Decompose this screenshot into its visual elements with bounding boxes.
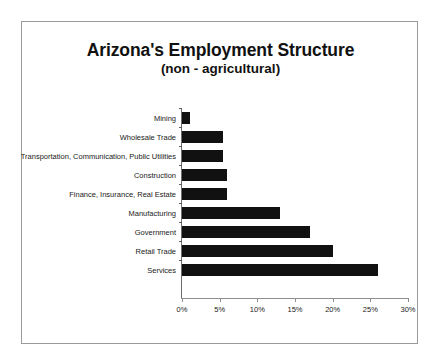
chart-subtitle: (non - agricultural) (22, 60, 419, 77)
category-label: Manufacturing (128, 208, 176, 217)
title-block: Arizona's Employment Structure (non - ag… (22, 40, 419, 77)
bar-manufacturing (182, 207, 280, 219)
category-label: Mining (154, 113, 176, 122)
bar-row: Wholesale Trade (182, 127, 408, 146)
bar-row: Finance, Insurance, Real Estate (182, 184, 408, 203)
bar-government (182, 226, 310, 238)
chart-title: Arizona's Employment Structure (22, 40, 419, 60)
x-axis-tick-label: 5% (214, 305, 225, 314)
x-axis-tick (182, 298, 183, 302)
bar-finance-insurance-real-estate (182, 188, 227, 200)
category-label: Retail Trade (136, 246, 176, 255)
x-axis-tick (408, 298, 409, 302)
chart-frame: Arizona's Employment Structure (non - ag… (21, 21, 418, 344)
y-axis-tick (179, 165, 182, 166)
x-axis-tick (257, 298, 258, 302)
category-label: Finance, Insurance, Real Estate (69, 189, 176, 198)
plot-area: Mining Wholesale Trade Transportation, C… (182, 108, 408, 298)
bar-wholesale-trade (182, 131, 223, 143)
bar-services (182, 264, 378, 276)
bar-retail-trade (182, 245, 333, 257)
y-axis-tick (179, 260, 182, 261)
y-axis-tick (179, 184, 182, 185)
category-label: Transportation, Communication, Public Ut… (21, 151, 176, 160)
y-axis-tick (179, 203, 182, 204)
y-axis-tick (179, 222, 182, 223)
x-axis-tick (295, 298, 296, 302)
bar-construction (182, 169, 227, 181)
bar-row: Transportation, Communication, Public Ut… (182, 146, 408, 165)
x-axis-tick-label: 10% (250, 305, 265, 314)
category-label: Wholesale Trade (120, 132, 176, 141)
x-axis-tick (333, 298, 334, 302)
bar-transportation-communication-public-utilities (182, 150, 223, 162)
x-axis-tick-label: 25% (363, 305, 378, 314)
bar-mining (182, 112, 190, 124)
x-axis-tick-label: 15% (287, 305, 302, 314)
category-label: Services (147, 265, 176, 274)
bar-row: Mining (182, 108, 408, 127)
y-axis-tick (179, 146, 182, 147)
x-axis-tick-label: 30% (400, 305, 415, 314)
bar-row: Manufacturing (182, 203, 408, 222)
x-axis-tick-label: 0% (177, 305, 188, 314)
bar-row: Construction (182, 165, 408, 184)
x-axis-tick (370, 298, 371, 302)
category-label: Construction (134, 170, 176, 179)
chart-figure: Arizona's Employment Structure (non - ag… (0, 0, 439, 363)
y-axis-tick (179, 127, 182, 128)
y-axis-tick (179, 241, 182, 242)
x-axis-tick-label: 20% (325, 305, 340, 314)
bar-row: Services (182, 260, 408, 279)
x-axis-tick (220, 298, 221, 302)
y-axis-tick (179, 108, 182, 109)
category-label: Government (135, 227, 176, 236)
bar-row: Government (182, 222, 408, 241)
bar-row: Retail Trade (182, 241, 408, 260)
